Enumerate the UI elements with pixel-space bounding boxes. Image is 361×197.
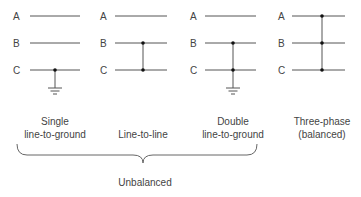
phase-label-b: B <box>13 38 20 49</box>
phase-label-b: B <box>190 38 197 49</box>
curly-brace <box>17 144 257 163</box>
diagram-double-line-to-ground: A B C Double line-to-ground <box>190 11 264 140</box>
phase-label-a: A <box>278 11 285 22</box>
fault-types-diagram: A B C Single line-to-ground A B C Line-t… <box>0 0 361 197</box>
junction-dot <box>53 68 57 72</box>
caption-line1: Single <box>41 116 69 127</box>
phase-label-c: C <box>13 65 20 76</box>
junction-dot <box>320 14 324 18</box>
phase-label-c: C <box>278 65 285 76</box>
caption-line1: Double <box>217 116 249 127</box>
junction-dot <box>320 68 324 72</box>
caption-line1: Three-phase <box>294 116 351 127</box>
phase-label-b: B <box>100 38 107 49</box>
phase-label-c: C <box>190 65 197 76</box>
junction-dot <box>231 41 235 45</box>
phase-label-b: B <box>278 38 285 49</box>
diagram-line-to-line: A B C Line-to-line <box>100 11 168 140</box>
junction-dot <box>141 68 145 72</box>
caption-line1: Line-to-line <box>118 129 168 140</box>
caption-line2: line-to-ground <box>202 129 264 140</box>
phase-label-a: A <box>190 11 197 22</box>
phase-label-a: A <box>100 11 107 22</box>
diagram-three-phase: A B C Three-phase (balanced) <box>278 11 351 140</box>
diagram-single-line-to-ground: A B C Single line-to-ground <box>13 11 86 140</box>
junction-dot <box>320 41 324 45</box>
ground-icon <box>48 88 62 94</box>
phase-label-c: C <box>100 65 107 76</box>
phase-label-a: A <box>13 11 20 22</box>
group-label-unbalanced: Unbalanced <box>118 177 171 188</box>
ground-icon <box>226 88 240 94</box>
junction-dot <box>141 41 145 45</box>
junction-dot <box>231 68 235 72</box>
caption-line2: line-to-ground <box>24 129 86 140</box>
caption-line2: (balanced) <box>298 129 345 140</box>
